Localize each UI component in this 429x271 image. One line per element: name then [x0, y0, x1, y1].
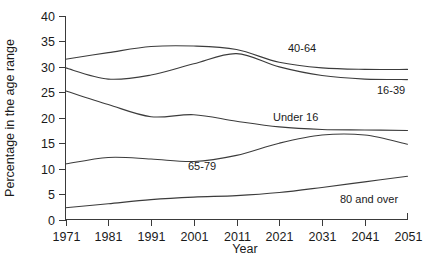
x-tick-label-2051: 2051 [395, 230, 423, 244]
y-tick-label-5: 5 [48, 188, 55, 202]
y-tick-label-0: 0 [48, 214, 55, 228]
y-axis-ticks [59, 17, 66, 221]
y-tick-label-20: 20 [41, 112, 55, 126]
y-tick-label-35: 35 [41, 35, 55, 49]
x-tick-label-1991: 1991 [138, 230, 166, 244]
line-chart: 0510152025303540 19711981199120012011202… [0, 0, 429, 271]
x-tick-label-2041: 2041 [352, 230, 380, 244]
x-axis-ticks [67, 220, 366, 227]
series-label-under-16: Under 16 [273, 111, 318, 123]
series-label-65-79: 65-79 [188, 160, 216, 172]
y-axis-title: Percentage in the age range [3, 39, 17, 197]
x-tick-label-1981: 1981 [95, 230, 123, 244]
x-axis-title: Year [232, 242, 257, 256]
series-line-40-64 [66, 46, 408, 70]
series-line-16-39 [66, 54, 408, 80]
series-line-65-79 [66, 134, 408, 164]
y-tick-label-15: 15 [41, 137, 55, 151]
series-label-80-and-over: 80 and over [340, 193, 398, 205]
y-tick-label-25: 25 [41, 86, 55, 100]
x-tick-label-2001: 2001 [181, 230, 209, 244]
y-tick-label-30: 30 [41, 61, 55, 75]
x-tick-label-2031: 2031 [309, 230, 337, 244]
y-tick-label-40: 40 [41, 10, 55, 24]
series-lines [66, 46, 408, 208]
chart-canvas: 0510152025303540 19711981199120012011202… [0, 0, 429, 271]
y-axis-tick-labels: 0510152025303540 [41, 10, 55, 228]
series-line-under-16 [66, 91, 408, 131]
y-tick-label-10: 10 [41, 163, 55, 177]
x-tick-label-2021: 2021 [266, 230, 294, 244]
series-label-16-39: 16-39 [377, 84, 405, 96]
series-label-40-64: 40-64 [288, 42, 316, 54]
x-tick-label-1971: 1971 [53, 230, 81, 244]
